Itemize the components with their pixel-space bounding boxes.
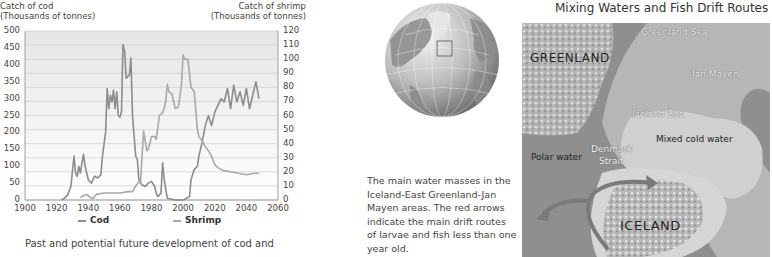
y-tick-right: 110	[283, 39, 299, 49]
label-denmark-strait-line2: Strait	[591, 155, 632, 167]
y-tick-left: 500	[4, 25, 20, 35]
x-tick: 2000	[168, 203, 198, 213]
legend-cod-label: Cod	[90, 215, 109, 225]
y-tick-left: 150	[4, 143, 20, 153]
y-tick-right: 50	[283, 124, 294, 134]
y-tick-right: 100	[283, 53, 299, 63]
legend-shrimp-swatch	[173, 220, 181, 222]
y-tick-left: 350	[4, 76, 20, 86]
y-tick-right: 30	[283, 152, 294, 162]
y-tick-right: 60	[283, 110, 294, 120]
legend-cod-swatch	[78, 220, 86, 222]
x-tick: 1980	[137, 203, 167, 213]
label-mixed-cold-water: Mixed cold water	[656, 134, 733, 144]
y-tick-left: 200	[4, 126, 20, 136]
globe-caption: The main water masses in the Iceland-Eas…	[367, 174, 517, 255]
y-tick-right: 40	[283, 138, 294, 148]
legend-shrimp: Shrimp	[173, 215, 221, 225]
x-tick: 1920	[42, 203, 72, 213]
y-tick-left: 100	[4, 160, 20, 170]
y-tick-right: 20	[283, 166, 294, 176]
x-tick: 1960	[105, 203, 135, 213]
chart-caption: Past and potential future development of…	[25, 237, 315, 251]
map-title: Mixing Waters and Fish Drift Routes	[555, 1, 768, 15]
y-tick-right: 10	[283, 180, 294, 190]
y-tick-right: 120	[283, 25, 299, 35]
y-tick-left: 300	[4, 93, 20, 103]
x-tick: 2040	[231, 203, 261, 213]
globe-image	[380, 0, 510, 130]
y-tick-right: 70	[283, 95, 294, 105]
label-polar-water: Polar water	[531, 152, 582, 162]
chart-plot	[0, 0, 310, 225]
y-tick-right: 90	[283, 67, 294, 77]
x-tick: 2020	[200, 203, 230, 213]
label-denmark-strait: Denmark Strait	[591, 143, 632, 167]
legend-shrimp-label: Shrimp	[185, 215, 221, 225]
y-tick-left: 50	[9, 177, 20, 187]
label-denmark-strait-line1: Denmark	[591, 143, 632, 155]
label-greenland: GREENLAND	[530, 51, 610, 65]
label-jan-mayen: Jan Mayen	[692, 69, 739, 79]
y-tick-left: 450	[4, 42, 20, 52]
y-tick-left: 400	[4, 59, 20, 69]
y-tick-left: 250	[4, 110, 20, 120]
x-tick: 2060	[263, 203, 293, 213]
label-iceland-sea: Iceland Sea	[632, 109, 684, 119]
label-iceland: ICELAND	[620, 218, 681, 233]
legend-cod: Cod	[78, 215, 109, 225]
x-tick: 1900	[10, 203, 40, 213]
y-tick-right: 80	[283, 81, 294, 91]
label-greenland-sea: Greenland Sea	[641, 27, 707, 37]
x-tick: 1940	[73, 203, 103, 213]
